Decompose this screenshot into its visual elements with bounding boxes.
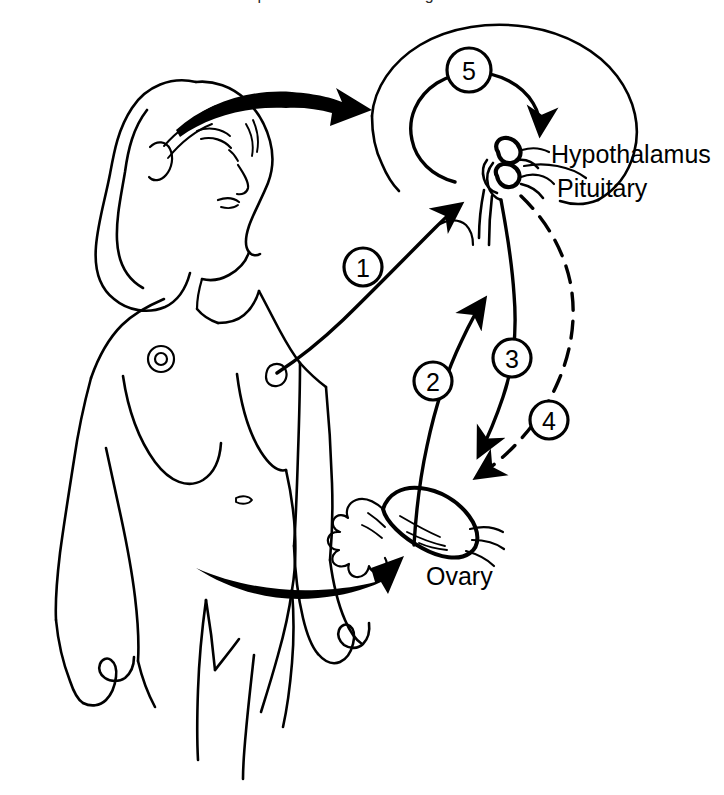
waist-left bbox=[138, 661, 155, 707]
ear bbox=[149, 142, 172, 180]
hypothalamus-leader bbox=[522, 148, 549, 152]
hair-outline bbox=[96, 80, 196, 310]
nose bbox=[237, 165, 248, 194]
eye-closed bbox=[201, 138, 231, 148]
chest-upper-right bbox=[259, 291, 300, 363]
breast-left-underline bbox=[123, 376, 221, 484]
figure-root: reproductive endocrine regulation bbox=[0, 0, 724, 795]
hip-right bbox=[261, 590, 292, 712]
female-figure bbox=[56, 80, 370, 779]
arm-right-upper-inner bbox=[294, 363, 300, 546]
arrow-1-path bbox=[277, 205, 460, 373]
pelvis-pointer-arrow bbox=[196, 556, 404, 599]
step-circle-4[interactable]: 4 bbox=[530, 401, 568, 439]
groin-crease bbox=[215, 639, 239, 670]
nipple-left bbox=[155, 353, 167, 365]
arm-left-inner bbox=[106, 448, 138, 661]
arrow-3-path bbox=[479, 200, 515, 455]
arrow-2-path bbox=[414, 300, 484, 545]
arrow-1-bracket bbox=[440, 220, 473, 245]
diagram-canvas: Hypothalamus Pituitary Ovary bbox=[0, 0, 724, 795]
lower-lip bbox=[221, 205, 238, 208]
arm-right-lower bbox=[294, 546, 318, 654]
temple-lock bbox=[253, 120, 258, 152]
arm-right-outer-lower bbox=[330, 560, 362, 644]
arm-left-outer bbox=[56, 378, 91, 620]
jaw-chin bbox=[202, 252, 249, 280]
arm-left-forearm bbox=[56, 620, 83, 703]
hypothalamus-pituitary-glyph bbox=[479, 138, 543, 245]
thigh-right-contour bbox=[243, 655, 254, 779]
label-hypothalamus: Hypothalamus bbox=[551, 140, 711, 168]
step-circle-1-label: 1 bbox=[356, 254, 370, 282]
step-circle-3[interactable]: 3 bbox=[493, 339, 531, 377]
step-circle-5-label: 5 bbox=[462, 57, 476, 85]
pituitary-leader bbox=[521, 175, 554, 184]
breast-right-underline bbox=[237, 374, 286, 470]
step-circle-4-label: 4 bbox=[542, 407, 556, 435]
skull-base-left bbox=[372, 116, 399, 191]
label-pituitary: Pituitary bbox=[557, 174, 648, 202]
label-ovary: Ovary bbox=[426, 562, 493, 590]
shoulder-right bbox=[218, 291, 259, 323]
navel bbox=[236, 496, 252, 503]
hair-inner-line bbox=[117, 110, 147, 288]
step-circle-1[interactable]: 1 bbox=[344, 248, 382, 286]
step-circle-2-label: 2 bbox=[426, 368, 440, 396]
arm-right-outer bbox=[300, 363, 326, 387]
step-circle-5[interactable]: 5 bbox=[447, 48, 491, 92]
step-circle-3-label: 3 bbox=[505, 345, 519, 373]
neck-front bbox=[197, 279, 202, 309]
thigh-left-inner bbox=[197, 600, 206, 760]
step-circle-2[interactable]: 2 bbox=[414, 362, 452, 400]
eyebrow bbox=[197, 129, 230, 136]
mouth bbox=[218, 198, 239, 202]
temple-lock-2 bbox=[246, 124, 253, 156]
neck-side-right bbox=[197, 309, 218, 323]
abdomen-crease bbox=[206, 600, 215, 670]
eyelash bbox=[229, 150, 238, 161]
nipple-left-areola bbox=[148, 346, 174, 372]
hand-left bbox=[83, 657, 134, 705]
